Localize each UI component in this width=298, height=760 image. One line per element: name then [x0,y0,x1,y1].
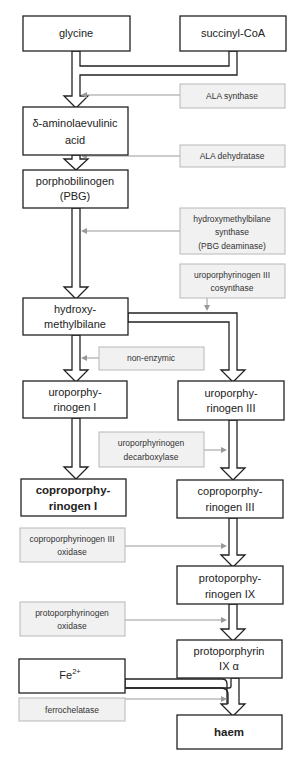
enzyme-non-enzymic-label: non-enzymic [127,353,176,363]
node-coproporphyrinogen-1: coproporphy- rinogen I [21,479,126,516]
enzyme-copro3-oxidase-label-1: coproporphyrinogen III [29,534,114,544]
enzyme-uro-decarboxylase-label-2: decarboxylase [124,452,179,462]
enzyme-ala-dehydratase: ALA dehydratase [180,145,285,167]
label-copro3-line2: rinogen III [206,501,255,513]
enzyme-ferrochelatase-label: ferrochelatase [45,705,99,715]
label-proto9-line2: IX α [219,660,239,672]
label-uro1-line1: uroporphy- [48,386,102,398]
arrowhead-ferrochelatase [221,696,227,702]
label-hmb-line1: hydroxy- [54,303,97,315]
node-protoporphyrinogen-9: protoporphy- rinogen IX [177,566,283,604]
node-succinyl-coa: succinyl-CoA [180,16,286,51]
label-glycine: glycine [59,27,93,39]
enzyme-copro3-oxidase: coproporphyrinogen III oxidase [20,528,125,562]
arrow-protogen9-to-proto9 [221,604,245,641]
enzyme-proto-oxidase-label-1: protoporphyrinogen [35,608,109,618]
label-protogen9-line1: protoporphy- [199,572,262,584]
label-copro1-line1: coproporphy- [36,484,111,496]
enzyme-ala-dehydratase-label: ALA dehydratase [200,151,265,161]
enzyme-non-enzymic: non-enzymic [99,347,204,370]
enzyme-hmb-synthase-label-3: (PBG deaminase) [198,241,266,251]
enzyme-hmb-synthase-label-1: hydroxymethylbilane [193,214,271,224]
node-haem: haem [177,715,282,749]
label-ala-line1: δ-aminolaevulinic [33,117,118,129]
arrow-uro1-to-copro1 [64,418,88,479]
label-iron-charge: 2+ [72,667,81,676]
label-ala-line2: acid [65,134,85,146]
label-haem: haem [214,726,244,738]
enzyme-proto-oxidase: protoporphyrinogen oxidase [20,602,125,636]
enzyme-uro3-cosynthase-label-1: uroporphyrinogen III [194,270,270,280]
enzyme-copro3-oxidase-label-2: oxidase [57,547,87,557]
label-copro3-line1: coproporphy- [198,485,263,497]
arrowhead-non-enzymic [81,355,87,361]
label-uro3-line2: rinogen III [207,402,256,414]
node-pbg: porphobilinogen (PBG) [23,170,128,208]
arrowhead-copro3-oxidase [221,543,227,549]
arrowhead-hmb-synthase [81,228,87,234]
arrowhead-proto-oxidase [221,617,227,623]
enzyme-ala-synthase-label: ALA synthase [206,91,258,101]
label-uro1-line2: rinogen I [54,401,97,413]
arrowhead-uro-decarboxylase [221,447,227,453]
label-hmb-line2: methylbilane [44,318,106,330]
label-pbg-line2: (PBG) [60,190,91,202]
arrow-proto9-fe-to-haem [125,678,245,716]
node-uroporphyrinogen-3: uroporphy- rinogen III [178,381,284,420]
enzyme-ala-synthase: ALA synthase [180,84,285,108]
enzyme-uro-decarboxylase: uroporphyrinogen decarboxylase [99,432,204,467]
node-ala: δ-aminolaevulinic acid [23,107,128,155]
node-iron: Fe2+ [19,659,125,693]
arrow-fe-inner [125,688,228,704]
label-protogen9-line2: rinogen IX [205,588,256,600]
label-iron-base: Fe [59,669,72,681]
arrowhead-uro3-cosynthase [204,305,210,311]
node-protoporphyrin-9: protoporphyrin IX α [177,640,282,678]
enzyme-proto-oxidase-label-2: oxidase [57,621,87,631]
label-copro1-line2: rinogen I [49,500,98,512]
enzyme-hmb-synthase-label-2: synthase [215,227,249,237]
enzyme-uro3-cosynthase: uroporphyrinogen III cosynthase [180,264,285,298]
enzyme-uro3-cosynthase-label-2: cosynthase [211,283,254,293]
label-proto9-line1: protoporphyrin [194,645,265,657]
arrow-copro3-to-protogen9 [221,518,245,567]
node-uroporphyrinogen-1: uroporphy- rinogen I [23,381,127,418]
node-hydroxymethylbilane: hydroxy- methylbilane [23,298,128,335]
enzyme-hmb-synthase: hydroxymethylbilane synthase (PBG deamin… [180,208,285,254]
enzyme-ferrochelatase: ferrochelatase [19,698,125,721]
node-glycine: glycine [23,16,130,51]
label-pbg-line1: porphobilinogen [36,175,114,187]
haem-pathway-diagram: glycine succinyl-CoA δ-aminolaevulinic a… [0,0,298,760]
enzyme-uro-decarboxylase-label-1: uroporphyrinogen [118,438,185,448]
arrow-pbg-to-hmb [64,208,88,299]
label-succinyl-coa: succinyl-CoA [201,27,266,39]
node-coproporphyrinogen-3: coproporphy- rinogen III [177,480,283,518]
label-uro3-line1: uroporphy- [204,387,258,399]
